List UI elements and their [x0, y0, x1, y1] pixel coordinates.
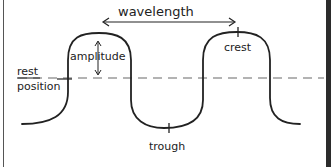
right-border: [326, 0, 331, 167]
position-label: position: [17, 80, 61, 93]
rest-label: rest: [17, 65, 39, 78]
amplitude-label: amplitude: [70, 50, 126, 63]
crest-label: crest: [224, 41, 252, 54]
trough-label: trough: [149, 140, 185, 153]
wave-diagram: wavelength amplitude crest trough rest p…: [0, 0, 331, 167]
wave-curve: [22, 32, 300, 128]
wavelength-label: wavelength: [118, 4, 194, 19]
